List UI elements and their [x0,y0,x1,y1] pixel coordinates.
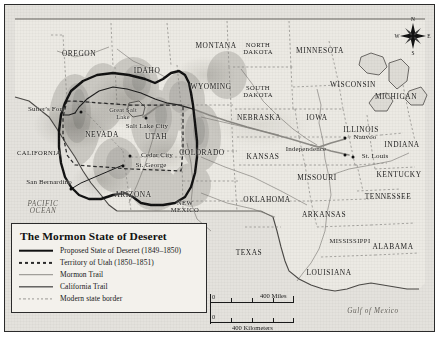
legend-swatch-thin-solid-black [19,282,53,291]
legend-entry: Modern state border [19,294,199,303]
map-legend: The Mormon State of Deseret Proposed Sta… [11,223,207,313]
city-marker-nauvoo [344,137,347,140]
scale-kilometers-label: 400 Kilometers [232,324,273,331]
compass-label-west: W [394,33,399,39]
state-of-deseret-boundary [59,71,197,205]
scale-kilometers-zero: 0 [212,313,215,320]
legend-entry-label: Mormon Trail [60,270,103,279]
legend-entry-label: Territory of Utah (1850–1851) [60,258,154,267]
city-marker-independence [344,154,347,157]
city-marker-cedar-city [129,155,132,158]
city-marker-san-bernardino [70,188,73,191]
city-marker-sutters-fort [80,111,83,114]
city-marker-st-louis [352,156,355,159]
legend-swatch-solid-gray [19,270,53,279]
map-figure: OREGONIDAHOMONTANAWYOMINGNORTH DAKOTASOU… [0,0,437,342]
legend-entry-label: Proposed State of Deseret (1849–1850) [60,246,181,255]
compass-label-north: N [411,16,415,22]
scale-miles-label: 400 Miles [260,292,287,299]
legend-swatch-thick-solid-black [19,246,53,255]
legend-entry: Proposed State of Deseret (1849–1850) [19,246,199,255]
scale-bars: 0 400 Miles 0 400 Kilometers [210,292,322,332]
compass-label-south: S [412,50,415,56]
city-marker-salt-lake-city [145,117,148,120]
map-neatline-frame: OREGONIDAHOMONTANAWYOMINGNORTH DAKOTASOU… [4,4,435,332]
legend-entry: Territory of Utah (1850–1851) [19,258,199,267]
city-marker-st-george [122,165,125,168]
legend-entry: California Trail [19,282,199,291]
legend-entries: Proposed State of Deseret (1849–1850)Ter… [19,246,199,303]
legend-entry: Mormon Trail [19,270,199,279]
legend-title: The Mormon State of Deseret [20,230,199,242]
compass-rose: N S E W [393,15,433,57]
legend-swatch-dotted-gray [19,294,53,303]
scale-miles-zero: 0 [212,293,215,300]
legend-entry-label: California Trail [60,282,108,291]
compass-label-east: E [427,33,430,39]
legend-entry-label: Modern state border [60,294,122,303]
legend-swatch-dashed-black [19,258,53,267]
